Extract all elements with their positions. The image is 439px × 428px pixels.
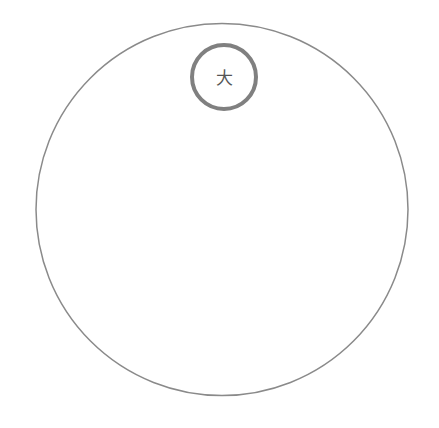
small-circle-label: 大: [216, 68, 233, 88]
circle-diagram: 大: [0, 0, 439, 428]
diagram-canvas: 大: [0, 0, 439, 428]
